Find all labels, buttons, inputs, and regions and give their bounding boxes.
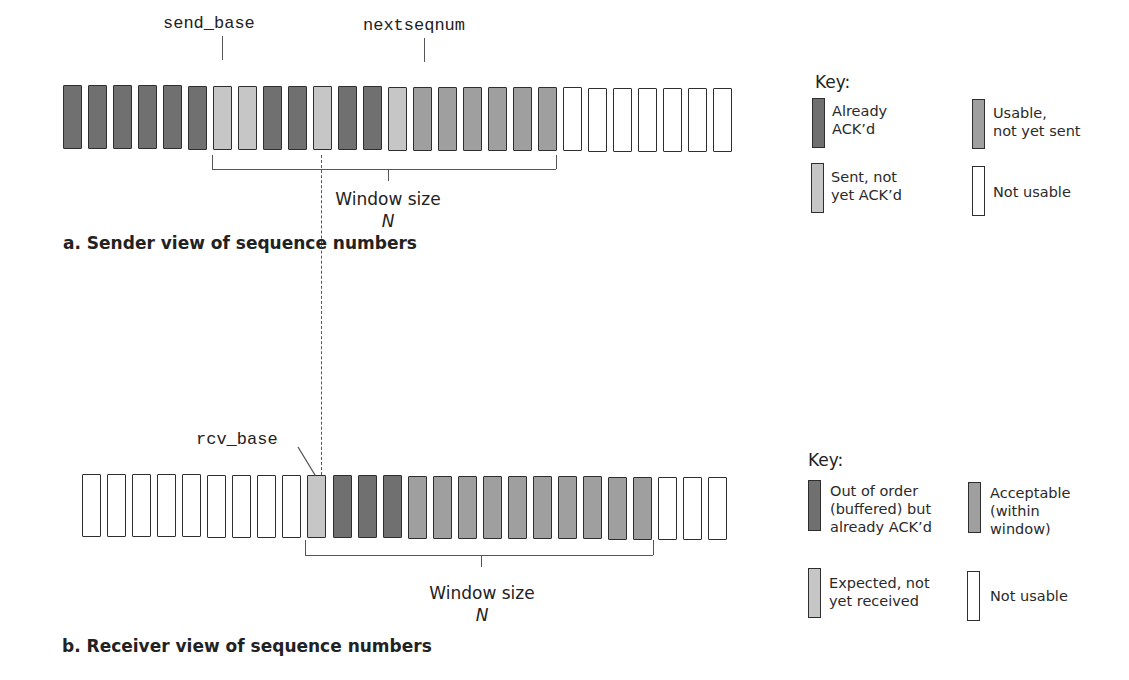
receiver-key-title: Key: [808,450,843,470]
key-swatch-sent-not-acked [811,163,824,213]
sender-window-size-label: Window size [318,188,458,210]
receiver-seq-box [583,476,602,539]
receiver-seq-box [508,476,527,539]
receiver-seq-box [358,475,377,538]
key-label-not-usable: Not usable [993,183,1071,201]
sender-seq-box [613,88,632,152]
key-label-usable-not-sent: Usable, not yet sent [993,104,1081,140]
sender-seq-box [563,87,582,151]
receiver-window-bracket-center [481,555,482,567]
receiver-window-bracket [305,555,653,556]
receiver-seq-box [683,477,702,540]
receiver-seq-box [408,476,427,539]
key-swatch-receiver-not-usable [967,571,980,621]
sender-seq-box [163,85,182,149]
receiver-seq-box [282,475,301,538]
receiver-seq-box [608,477,627,540]
key-label-receiver-not-usable: Not usable [990,587,1068,605]
send-base-pointer [222,36,223,60]
receiver-caption: b. Receiver view of sequence numbers [62,636,432,656]
receiver-seq-box [207,475,226,538]
key-label-sent-not-acked: Sent, not yet ACK’d [831,168,902,204]
sender-seq-box [513,87,532,151]
receiver-seq-box [533,476,552,539]
sender-window-size-n: N [318,210,458,232]
key-label-acceptable: Acceptable (within window) [990,484,1070,538]
receiver-seq-box [433,476,452,539]
receiver-seq-box [307,475,326,538]
sender-seq-box [138,85,157,149]
receiver-seq-box [82,474,101,537]
receiver-seq-box [107,474,126,537]
sender-seq-box [113,85,132,149]
sender-seq-box [588,88,607,152]
key-swatch-out-of-order-acked [808,480,821,531]
receiver-seq-box [157,474,176,537]
sender-seq-box [288,86,307,150]
receiver-seq-box [383,475,402,538]
receiver-window-size-n: N [412,604,552,626]
sender-seq-box [63,85,82,149]
receiver-seq-box [232,475,251,538]
receiver-seq-box [708,477,727,540]
sender-seq-box [538,87,557,151]
receiver-window-bracket-left [305,540,306,555]
key-label-out-of-order-acked: Out of order (buffered) but already ACK’… [830,482,932,536]
receiver-seq-box [333,475,352,538]
receiver-seq-box [633,477,652,540]
send-base-label: send_base [163,14,255,33]
key-swatch-not-usable [972,166,985,216]
sender-seq-box [638,88,657,152]
sender-caption: a. Sender view of sequence numbers [63,233,417,253]
key-label-already-acked: Already ACK’d [832,102,887,138]
sender-seq-box [338,86,357,150]
nextseqnum-pointer [424,38,425,62]
sender-seq-box [438,87,457,151]
receiver-seq-box [132,474,151,537]
rcv-base-label: rcv_base [196,430,278,449]
sender-seq-box [238,86,257,150]
sender-seq-box [388,87,407,151]
receiver-seq-box [182,474,201,537]
sender-key-title: Key: [815,72,850,92]
sender-window-bracket [212,169,556,170]
key-swatch-expected-not-received [808,568,821,618]
sender-seq-box [213,86,232,150]
key-swatch-already-acked [812,98,825,148]
sender-window-bracket-center [388,169,389,181]
sender-seq-box [263,86,282,150]
alignment-dashed-line [321,155,322,475]
sender-window-bracket-right [556,155,557,169]
sender-seq-box [88,85,107,149]
receiver-window-bracket-right [653,540,654,555]
sender-seq-box [663,88,682,152]
receiver-window-size-label: Window size [412,582,552,604]
sender-window-bracket-left [212,155,213,169]
sender-seq-box [713,88,732,152]
sender-seq-box [188,86,207,150]
key-label-expected-not-received: Expected, not yet received [829,574,930,610]
receiver-seq-box [257,475,276,538]
sender-seq-box [313,86,332,150]
nextseqnum-label: nextseqnum [363,16,465,35]
key-swatch-acceptable [968,482,981,533]
receiver-seq-box [658,477,677,540]
key-swatch-usable-not-sent [972,99,985,149]
sender-seq-box [413,87,432,151]
sender-seq-box [463,87,482,151]
receiver-seq-box [483,476,502,539]
receiver-seq-box [558,476,577,539]
sender-seq-box [363,86,382,150]
sender-seq-box [488,87,507,151]
receiver-seq-box [458,476,477,539]
sender-seq-box [688,88,707,152]
